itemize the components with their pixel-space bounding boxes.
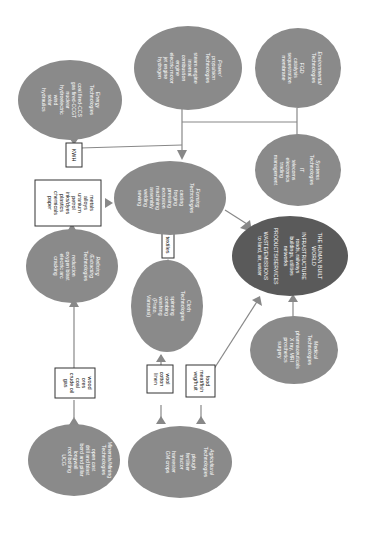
cloth-item: Varanasi) — [146, 295, 152, 317]
box-textiles: textiles — [162, 232, 174, 258]
box-materials: metals alloys uranium petrol inks/dyes p… — [35, 180, 101, 226]
box-item: veg/fruit — [193, 371, 199, 391]
node-power-propulsion-technologies: Power/ propulsion Technologies steam eng… — [134, 26, 242, 110]
environmental-title-2: Technologies — [311, 53, 317, 84]
box-food: food meat/fish veg/fruit — [186, 365, 215, 397]
energy-item: hydraulics — [41, 88, 47, 112]
agricultural-item: tractor — [179, 455, 185, 470]
node-energy-technologies: Energy Technologies coal fired-CCS gas f… — [18, 60, 122, 140]
node-medical-technologies: Medical Technologies pharmaceuticals X r… — [250, 316, 338, 384]
built-world-item: to land, air, water — [257, 236, 263, 276]
power-item: hydrogen — [157, 57, 163, 79]
systems-item: management — [273, 155, 279, 186]
node-human-built-world: THE HUMAN BUILT WORLD INFRASTRUCTURE roa… — [232, 216, 348, 296]
agricultural-item: GM crops — [165, 451, 171, 474]
built-world-products: PRODUCTS/SERVICES — [273, 228, 279, 285]
box-kwh: KWH — [66, 143, 82, 167]
refining-item: cracking — [53, 256, 59, 275]
refining-title-3: Technologies — [83, 251, 89, 282]
box-fibres: wool cotton linen — [147, 365, 173, 393]
energy-title-2: Technologies — [89, 85, 95, 116]
node-mining-technologies: Minerals/Mining Technologies open cast d… — [28, 424, 120, 496]
technology-flow-diagram: Minerals/Mining Technologies open cast d… — [0, 0, 367, 543]
box-item: linen — [153, 373, 159, 384]
forming-title-2: Technologies — [189, 183, 195, 214]
mining-item: UCG — [61, 454, 67, 466]
medical-title-2: Technologies — [307, 335, 313, 366]
box-item: textiles — [165, 237, 171, 254]
node-cloth-technologies: Cloth Technologies spinning combing wash… — [131, 260, 203, 352]
environmental-item: membrane — [281, 56, 287, 81]
medical-item: surgery — [277, 341, 283, 359]
agricultural-title-2: Technologies — [203, 447, 209, 478]
box-item: KWH — [71, 149, 77, 162]
box-raw-minerals: wood ores coal crude oil gas — [55, 368, 95, 398]
node-systems-technologies: Systems Technologies IT telecoms electro… — [255, 134, 341, 206]
node-forming-technologies: Forming Technologies casting forging pre… — [114, 161, 226, 235]
forming-item: sewing — [137, 190, 143, 206]
cloth-title-2: Technologies — [180, 291, 186, 322]
node-environmental-technologies: Environmental Technologies FGD catalysis… — [255, 28, 341, 108]
built-world-title-2: WORLD — [311, 246, 317, 266]
box-item: paper — [47, 196, 53, 210]
systems-title-2: Technologies — [309, 155, 315, 186]
node-refining-technologies: Refining /Extracting Technologies reduct… — [26, 229, 118, 303]
power-title-3: Technologies — [205, 53, 211, 84]
mining-title-2: Technologies — [101, 445, 107, 476]
node-agricultural-technologies: Agricultural Technologies plough fertili… — [128, 426, 232, 498]
diagram-canvas: Minerals/Mining Technologies open cast d… — [0, 0, 367, 543]
built-world-item: networks — [283, 246, 289, 267]
box-item: gas — [63, 379, 69, 388]
